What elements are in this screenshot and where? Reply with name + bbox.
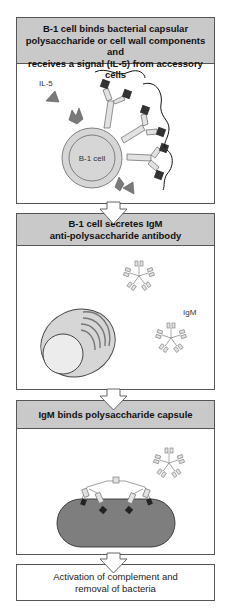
il5-triangle-icon — [46, 91, 59, 102]
step3-panel: IgM binds polysaccharide capsule — [16, 400, 215, 555]
step2-title-line2: anti-polysaccharide antibody — [17, 230, 214, 242]
step1-panel: B-1 cell binds bacterial capsular polysa… — [16, 17, 215, 204]
igm-pentamer-bottom-icon — [155, 323, 186, 352]
step2-title-line1: B-1 cell secretes IgM — [17, 218, 214, 230]
step1-title-line1: B-1 cell binds bacterial capsular — [17, 23, 214, 35]
step4-text-line1: Activation of complement and — [17, 571, 214, 583]
bacterium-body — [57, 499, 175, 547]
b1-cell-label: B-1 cell — [79, 154, 106, 163]
step2-panel: B-1 cell secretes IgM anti-polysaccharid… — [16, 213, 215, 390]
step2-illustration: IgM — [17, 246, 214, 389]
il5-label: IL-5 — [39, 79, 53, 88]
plasma-cell-nucleus — [43, 334, 83, 374]
igm-label: IgM — [183, 308, 197, 317]
il5-receptor-bottom-icon — [115, 177, 124, 191]
igm-pentamer-top-icon — [123, 261, 154, 290]
igm-pentamer-free-icon — [153, 448, 184, 477]
il5-receptor-top-icon — [69, 108, 83, 124]
plasma-cell-illustration: IgM — [17, 246, 214, 389]
step1-title-line2: polysaccharide or cell wall components a… — [17, 35, 214, 58]
step3-title-line1: IgM binds polysaccharide capsule — [17, 409, 214, 421]
step3-illustration — [17, 429, 214, 554]
step1-header: B-1 cell binds bacterial capsular polysa… — [17, 18, 214, 64]
il5-bound-triangle-icon — [123, 182, 134, 194]
step1-illustration: IL-5 — [17, 64, 214, 203]
step2-header: B-1 cell secretes IgM anti-polysaccharid… — [17, 214, 214, 246]
b1-cell-binding-illustration: IL-5 — [17, 64, 214, 203]
step3-header: IgM binds polysaccharide capsule — [17, 401, 214, 429]
step4-panel: Activation of complement and removal of … — [16, 564, 215, 601]
igm-bound-bacterium-illustration — [17, 429, 214, 554]
step4-text-line2: removal of bacteria — [17, 583, 214, 595]
